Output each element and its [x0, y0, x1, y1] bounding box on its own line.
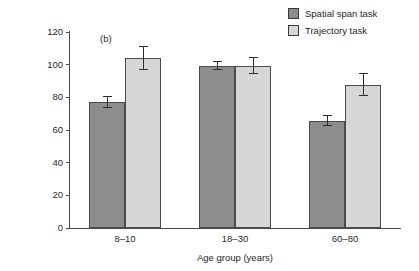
- y-tick-mark: [66, 32, 70, 33]
- error-bar-cap-bottom: [103, 107, 112, 108]
- plot-area: 020406080100120 8–1018–3060–80: [70, 32, 400, 228]
- bar-group-3: [309, 32, 381, 228]
- x-tick-label-2: 18–30: [180, 233, 290, 244]
- error-bar-cap-bottom: [323, 125, 332, 126]
- error-bar-cap-top: [249, 57, 258, 58]
- error-bar-line: [143, 47, 144, 70]
- y-tick-label: 100: [47, 59, 63, 70]
- figure-panel-b: Spatial span task Trajectory task (b) % …: [0, 0, 419, 271]
- y-tick-mark: [66, 64, 70, 65]
- x-axis-label: Age group (years): [69, 252, 401, 263]
- x-axis-line: [69, 228, 401, 229]
- error-bar-cap-top: [359, 73, 368, 74]
- error-bar-cap-top: [213, 61, 222, 62]
- y-tick-label: 20: [52, 189, 63, 200]
- legend-swatch-spatial-span-task: [288, 8, 299, 19]
- legend-label-spatial-span-task: Spatial span task: [305, 9, 377, 19]
- y-tick-label: 60: [52, 124, 63, 135]
- error-bar-cap-top: [139, 46, 148, 47]
- error-bar-line: [253, 58, 254, 74]
- error-bar-cap-bottom: [249, 73, 258, 74]
- y-tick-label: 0: [58, 222, 63, 233]
- y-tick-label: 40: [52, 157, 63, 168]
- y-tick-mark: [66, 195, 70, 196]
- x-tick-label-3: 60–80: [290, 233, 400, 244]
- bar-group-2: [199, 32, 271, 228]
- bar-spatial-span-task-group-1: [89, 102, 125, 228]
- error-bar-cap-bottom: [139, 69, 148, 70]
- bar-spatial-span-task-group-2: [199, 66, 235, 228]
- bar-group-1: [89, 32, 161, 228]
- y-tick-label: 80: [52, 91, 63, 102]
- legend-item-spatial-span-task: Spatial span task: [288, 6, 416, 21]
- error-bar-line: [363, 74, 364, 95]
- y-tick-mark: [66, 228, 70, 229]
- bar-trajectory-task-group-2: [235, 66, 271, 228]
- error-bar-cap-top: [323, 115, 332, 116]
- x-tick-label-1: 8–10: [70, 233, 180, 244]
- error-bar-cap-bottom: [213, 69, 222, 70]
- error-bar-cap-top: [103, 96, 112, 97]
- bar-trajectory-task-group-3: [345, 85, 381, 228]
- error-bar-cap-bottom: [359, 95, 368, 96]
- bar-trajectory-task-group-1: [125, 58, 161, 228]
- y-tick-mark: [66, 97, 70, 98]
- y-tick-mark: [66, 162, 70, 163]
- bar-spatial-span-task-group-3: [309, 121, 345, 228]
- y-tick-label: 120: [47, 26, 63, 37]
- y-tick-mark: [66, 130, 70, 131]
